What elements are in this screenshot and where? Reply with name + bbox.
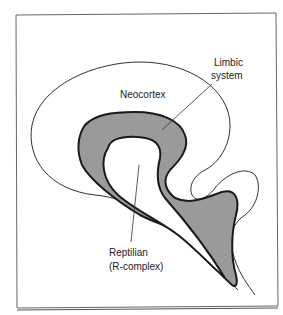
- triune-brain-diagram: Neocortex Limbic system Reptilian (R-com…: [0, 0, 283, 315]
- limbic-label-line2: system: [211, 70, 243, 81]
- reptilian-label-line1: Reptilian: [109, 247, 148, 258]
- neocortex-label: Neocortex: [120, 89, 166, 100]
- frame-bottom-divider: [17, 308, 278, 310]
- limbic-pointer-line: [162, 84, 212, 130]
- reptilian-label-line2: (R-complex): [109, 261, 163, 272]
- limbic-label-line1: Limbic: [214, 57, 243, 68]
